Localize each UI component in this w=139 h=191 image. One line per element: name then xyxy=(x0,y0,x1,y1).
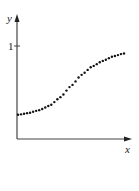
data-point xyxy=(26,112,28,114)
data-point xyxy=(77,76,79,78)
data-point xyxy=(35,110,37,112)
chart: 1 y x xyxy=(0,0,139,191)
data-point xyxy=(20,113,22,115)
data-curve xyxy=(17,52,125,116)
data-point xyxy=(74,80,76,82)
x-axis-arrow-icon xyxy=(124,137,132,142)
data-point xyxy=(80,74,82,76)
data-point xyxy=(44,106,46,108)
data-point xyxy=(108,57,110,59)
data-point xyxy=(114,55,116,57)
data-point xyxy=(86,69,88,71)
data-point xyxy=(47,105,49,107)
data-point xyxy=(38,109,40,111)
data-point xyxy=(32,111,34,113)
data-point xyxy=(65,89,67,91)
data-point xyxy=(120,53,122,55)
y-tick-label: 1 xyxy=(8,40,14,52)
data-point xyxy=(102,60,104,62)
data-point xyxy=(89,66,91,68)
data-point xyxy=(56,98,58,100)
data-point xyxy=(99,61,101,63)
data-point xyxy=(96,63,98,65)
data-point xyxy=(71,84,73,86)
x-axis-label: x xyxy=(124,143,130,155)
data-point xyxy=(17,114,19,116)
y-axis-arrow-icon xyxy=(15,14,20,22)
data-point xyxy=(50,103,52,105)
data-point xyxy=(93,65,95,67)
data-point xyxy=(59,96,61,98)
data-point xyxy=(117,54,119,56)
y-axis-label: y xyxy=(6,12,12,24)
data-point xyxy=(29,111,31,113)
data-point xyxy=(41,108,43,110)
data-point xyxy=(111,55,113,57)
data-point xyxy=(123,52,125,54)
data-point xyxy=(53,101,55,103)
data-point xyxy=(62,93,64,95)
data-point xyxy=(105,59,107,61)
data-point xyxy=(23,113,25,115)
data-point xyxy=(83,72,85,74)
x-axis xyxy=(17,137,132,142)
data-point xyxy=(68,86,70,88)
y-axis xyxy=(15,14,20,139)
